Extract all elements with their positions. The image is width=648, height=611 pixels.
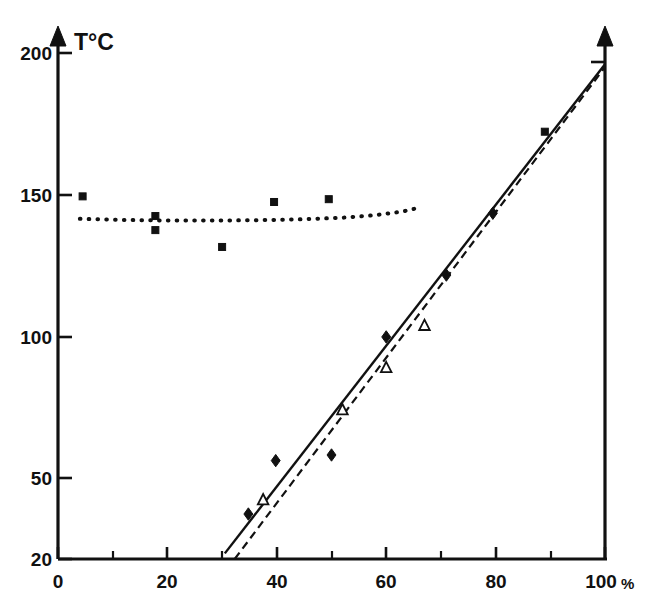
x-tick-label-100: 100 [585,571,617,592]
y-tick-label-50: 50 [31,468,52,489]
x-tick-label-60: 60 [375,571,396,592]
marker-filled-square [325,196,332,203]
y-tick-label-100: 100 [20,327,52,348]
marker-filled-square [271,198,278,205]
x-tick-label-0: 0 [53,571,64,592]
data-markers-group [79,128,548,520]
y-tick-group: 200 150 100 50 20 [20,43,72,570]
y-axis-arrowhead-icon [50,26,66,46]
marker-filled-diamond [488,207,497,219]
marker-filled-square [541,128,548,135]
right-axis-arrowhead-icon [597,26,613,46]
y-tick-label-20: 20 [31,549,52,570]
x-tick-label-40: 40 [266,571,287,592]
axis-group [50,26,613,559]
dotted-plateau-curve-path [80,207,422,220]
x-tick-label-80: 80 [485,571,506,592]
trend-lines-group [225,64,605,559]
x-tick-label-20: 20 [156,571,177,592]
chart-container: 200 150 100 50 20 0 20 40 60 80 [0,0,648,611]
y-axis-title: T°C [74,29,114,55]
x-tick-group: 0 20 40 60 80 100 % [53,547,635,592]
marker-open-triangle [381,362,392,372]
marker-open-triangle [419,320,430,330]
marker-filled-diamond [271,454,280,466]
y-tick-label-200: 200 [20,43,52,64]
dotted-plateau-curve [80,207,422,220]
marker-filled-square [79,193,86,200]
solid-trend-line [225,64,605,553]
scatter-plot-svg: 200 150 100 50 20 0 20 40 60 80 [0,0,648,611]
marker-filled-square [152,213,159,220]
x-axis-unit-label: % [621,575,634,592]
marker-filled-diamond [327,449,336,461]
dashed-trend-line [235,67,605,559]
marker-filled-square [219,243,226,250]
marker-filled-square [152,227,159,234]
y-tick-label-150: 150 [20,185,52,206]
